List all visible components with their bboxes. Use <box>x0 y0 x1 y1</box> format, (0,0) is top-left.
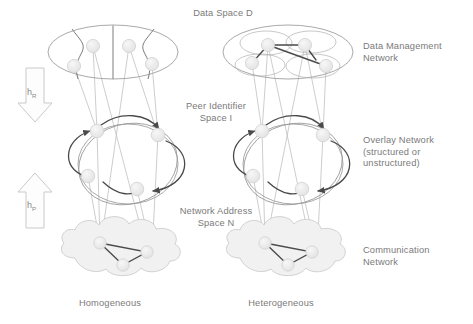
node <box>319 59 332 72</box>
page-title: Data Space D <box>153 8 293 20</box>
node <box>122 39 135 52</box>
node <box>245 56 258 69</box>
network-address-space-label: Network Address Space N <box>158 206 274 229</box>
node <box>295 182 309 196</box>
node <box>145 57 158 70</box>
node <box>306 246 318 258</box>
caption-homogeneous: Homogeneous <box>55 298 165 310</box>
up-arrow-label: hP <box>27 200 36 212</box>
data-management-network-label: Data Management Network <box>363 41 471 64</box>
left-column-group <box>48 25 187 276</box>
overlay-arc <box>318 141 350 191</box>
overlay-network-label: Overlay Network (structured or unstructu… <box>363 135 471 170</box>
node <box>246 169 260 183</box>
right-overlay-ring <box>234 112 353 216</box>
node <box>130 182 144 196</box>
node <box>259 237 271 249</box>
down-arrow-label: hR <box>27 87 36 99</box>
peer-identifier-space-label: Peer Identifier Space I <box>160 101 272 124</box>
node <box>255 124 269 138</box>
left-overlay-ring <box>69 112 188 216</box>
right-column-group <box>223 25 353 276</box>
down-arrow-subscript: R <box>32 92 36 99</box>
node <box>90 124 104 138</box>
node <box>282 259 294 271</box>
node <box>86 39 99 52</box>
diagram-canvas: .out{fill:none;stroke:#9a9a9a;stroke-wid… <box>0 0 473 324</box>
communication-network-label: Communication Network <box>363 245 471 268</box>
left-data-space-ellipse <box>48 25 178 79</box>
node <box>141 246 153 258</box>
overlay-arc <box>153 141 185 191</box>
node <box>81 169 95 183</box>
subregion <box>235 54 285 76</box>
node <box>117 259 129 271</box>
caption-heterogeneous: Heterogeneous <box>222 298 340 310</box>
node <box>298 38 311 51</box>
node <box>261 38 274 51</box>
node <box>94 237 106 249</box>
up-arrow-subscript: P <box>32 205 36 212</box>
right-data-space-ellipse <box>223 25 353 79</box>
node <box>151 128 165 142</box>
node <box>316 128 330 142</box>
node <box>67 59 80 72</box>
